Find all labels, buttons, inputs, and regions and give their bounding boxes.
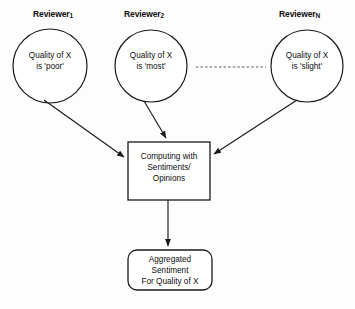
reviewer-n-label: ReviewerN	[279, 9, 320, 19]
reviewer-2-label-subscript: 2	[161, 12, 165, 19]
arrow-reviewern-to-process	[214, 100, 297, 154]
reviewer-1-label: Reviewer1	[33, 9, 73, 19]
reviewer-2-label: Reviewer2	[124, 9, 164, 19]
process-box-label: Computing with Sentiments/ Opinions	[128, 152, 210, 184]
diagram-canvas: Reviewer1 Reviewer2 ReviewerN Quality of…	[0, 0, 355, 309]
arrow-reviewer2-to-process	[144, 101, 166, 138]
reviewer-1-label-subscript: 1	[70, 12, 74, 19]
reviewer-2-label-text: Reviewer	[124, 9, 161, 19]
reviewer-1-statement: Quality of X is 'poor'	[12, 51, 88, 72]
reviewer-2-statement: Quality of X is 'most'	[113, 51, 189, 72]
reviewer-n-statement: Quality of X is 'slight'	[269, 51, 345, 72]
reviewer-n-label-text: Reviewer	[279, 9, 316, 19]
arrow-reviewer1-to-process	[44, 100, 124, 157]
output-box-label: Aggregated Sentiment For Quality of X	[128, 255, 212, 287]
reviewer-n-label-subscript: N	[316, 12, 321, 19]
reviewer-1-label-text: Reviewer	[33, 9, 70, 19]
